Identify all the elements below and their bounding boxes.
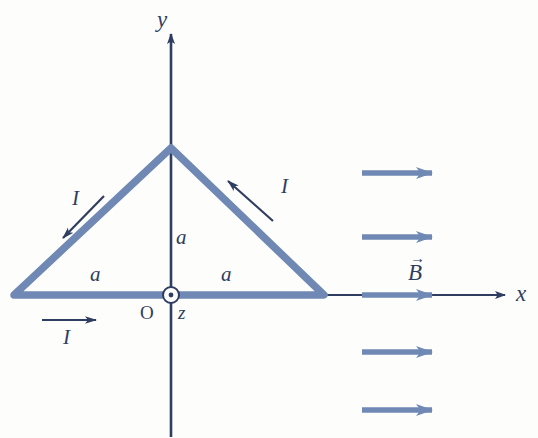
length-label-bottom-left: a	[90, 264, 101, 285]
length-label-bottom-right: a	[221, 264, 232, 285]
current-label-left-side: I	[72, 188, 79, 209]
current-label-right-side: I	[281, 176, 288, 197]
current-arrow-right-side	[228, 181, 273, 221]
x-axis-label: x	[516, 282, 526, 305]
physics-diagram-figure: y x z O I I I a a a → B	[0, 0, 538, 438]
y-axis-label: y	[157, 8, 167, 31]
origin-label: O	[140, 303, 154, 322]
magnetic-field-label: B	[408, 261, 423, 284]
diagram-canvas	[0, 0, 538, 438]
magnetic-field-arrows	[362, 173, 432, 410]
magnetic-field-label-group: → B	[408, 250, 423, 284]
triangular-current-loop	[14, 148, 324, 295]
z-axis-label: z	[178, 303, 185, 322]
loop-outline	[14, 148, 324, 295]
current-label-bottom-side: I	[63, 327, 70, 348]
origin-z-out-of-page-icon	[163, 287, 179, 303]
length-label-height: a	[176, 227, 187, 248]
